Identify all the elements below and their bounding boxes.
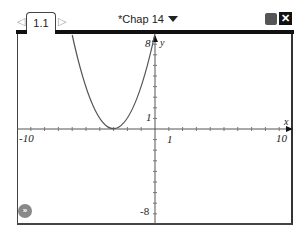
x-max-label: 10 [276, 132, 287, 144]
y-axis-name: y [160, 37, 164, 48]
graph-canvas [0, 0, 306, 240]
x-min-label: -10 [19, 132, 34, 144]
function-graph-curve[interactable] [72, 34, 155, 129]
y-unit-label: 1 [146, 111, 152, 123]
x-unit-label: 1 [167, 133, 173, 145]
x-axis-name: x [284, 116, 288, 127]
y-max-label: 8 [145, 37, 151, 49]
play-button[interactable]: » [18, 204, 32, 218]
y-min-label: -8 [140, 205, 149, 217]
